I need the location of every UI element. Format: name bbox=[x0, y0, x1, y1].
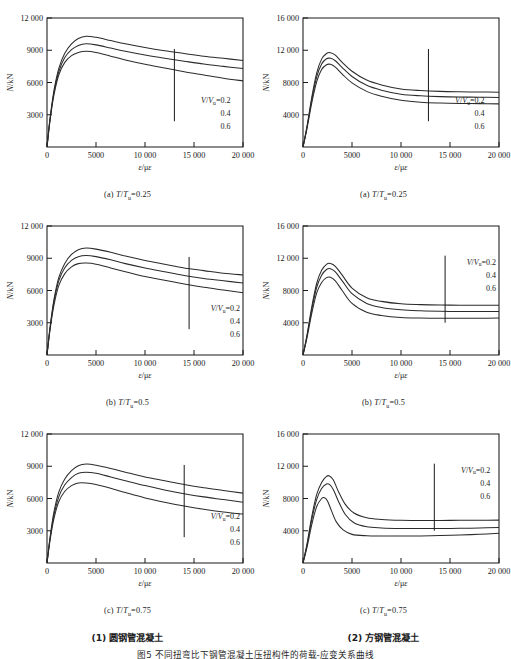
x-axis-label: ε/με bbox=[138, 163, 152, 172]
svg-text:4000: 4000 bbox=[283, 111, 299, 120]
svg-text:9000: 9000 bbox=[27, 254, 43, 263]
legend-group: V/Vu=0.20.40.6 bbox=[211, 512, 240, 547]
legend-entry-0: V/Vu=0.2 bbox=[211, 304, 240, 314]
y-axis-label: N/kN bbox=[6, 74, 15, 93]
x-axis-ticks: 0500010 00015 00020 000 bbox=[301, 350, 510, 368]
svg-text:15 000: 15 000 bbox=[183, 359, 206, 368]
series-line-2 bbox=[303, 497, 499, 563]
series-line-1 bbox=[303, 484, 499, 563]
svg-text:16 000: 16 000 bbox=[276, 14, 299, 23]
series-line-1 bbox=[303, 269, 499, 355]
subcaption-value: =0.5 bbox=[389, 398, 405, 407]
subcaption-variable: T/Tu bbox=[118, 398, 133, 407]
legend-group: V/Vu=0.20.40.6 bbox=[211, 304, 240, 339]
chart-panel-panel-1a: 30006000900012 0000500010 00015 00020 00… bbox=[0, 4, 255, 212]
subcaption-variable: T/Tu bbox=[116, 190, 131, 199]
subcaption-value: =0.75 bbox=[387, 606, 407, 615]
legend-group: V/Vu=0.20.40.6 bbox=[455, 96, 484, 131]
svg-text:5000: 5000 bbox=[344, 567, 360, 576]
svg-text:15 000: 15 000 bbox=[183, 151, 206, 160]
svg-text:10 000: 10 000 bbox=[134, 151, 157, 160]
panel-subcaption-panel-2c: (c) T/Tu=0.75 bbox=[256, 606, 511, 617]
subcaption-variable: T/Tu bbox=[116, 606, 131, 615]
svg-text:20 000: 20 000 bbox=[232, 567, 255, 576]
legend-entry-1: 0.4 bbox=[486, 271, 496, 280]
legend-entry-0: V/Vu=0.2 bbox=[201, 96, 230, 106]
y-axis-label: N/kN bbox=[6, 490, 15, 509]
svg-text:15 000: 15 000 bbox=[439, 567, 462, 576]
plot-area-panel-2b: 4000800012 00016 0000500010 00015 00020 … bbox=[256, 212, 511, 397]
panel-subcaption-panel-2a: (a) T/Tu=0.25 bbox=[256, 190, 511, 201]
legend-entry-0: V/Vu=0.2 bbox=[461, 466, 490, 476]
svg-text:4000: 4000 bbox=[283, 527, 299, 536]
series-group bbox=[303, 475, 499, 563]
svg-text:0: 0 bbox=[301, 359, 305, 368]
legend-entry-0: V/Vu=0.2 bbox=[211, 512, 240, 522]
subcaption-index: (b) bbox=[362, 398, 374, 407]
svg-text:5000: 5000 bbox=[344, 359, 360, 368]
panel-subcaption-panel-1a: (a) T/Tu=0.25 bbox=[0, 190, 255, 201]
series-line-1 bbox=[47, 44, 243, 147]
axis-frame bbox=[303, 434, 499, 563]
plot-area-panel-1c: 30006000900012 0000500010 00015 00020 00… bbox=[0, 420, 255, 605]
legend-entry-1: 0.4 bbox=[230, 525, 240, 534]
plot-area-panel-1b: 30006000900012 0000500010 00015 00020 00… bbox=[0, 212, 255, 397]
svg-text:10 000: 10 000 bbox=[390, 151, 413, 160]
y-axis-label: N/kN bbox=[262, 490, 271, 509]
svg-text:3000: 3000 bbox=[27, 527, 43, 536]
subcaption-index: (c) bbox=[360, 606, 372, 615]
subcaption-variable: T/Tu bbox=[372, 606, 387, 615]
svg-text:12 000: 12 000 bbox=[276, 254, 299, 263]
legend-entry-2: 0.6 bbox=[480, 492, 490, 501]
chart-panel-panel-1c: 30006000900012 0000500010 00015 00020 00… bbox=[0, 420, 255, 628]
subcaption-variable: T/Tu bbox=[372, 190, 387, 199]
legend-entry-2: 0.6 bbox=[230, 330, 240, 339]
svg-text:6000: 6000 bbox=[27, 287, 43, 296]
legend-entry-1: 0.4 bbox=[220, 109, 230, 118]
series-line-2 bbox=[303, 277, 499, 355]
svg-text:12 000: 12 000 bbox=[276, 462, 299, 471]
svg-text:20 000: 20 000 bbox=[232, 359, 255, 368]
series-line-2 bbox=[47, 483, 243, 563]
panel-subcaption-panel-2b: (b) T/Tu=0.5 bbox=[256, 398, 511, 409]
x-axis-label: ε/με bbox=[138, 579, 152, 588]
plot-area-panel-1a: 30006000900012 0000500010 00015 00020 00… bbox=[0, 4, 255, 189]
svg-text:9000: 9000 bbox=[27, 46, 43, 55]
svg-text:5000: 5000 bbox=[344, 151, 360, 160]
x-axis-label: ε/με bbox=[394, 371, 408, 380]
svg-text:15 000: 15 000 bbox=[183, 567, 206, 576]
x-axis-label: ε/με bbox=[394, 579, 408, 588]
x-axis-label: ε/με bbox=[138, 371, 152, 380]
legend-entry-2: 0.6 bbox=[486, 284, 496, 293]
svg-text:3000: 3000 bbox=[27, 319, 43, 328]
plot-area-panel-2a: 4000800012 00016 0000500010 00015 00020 … bbox=[256, 4, 511, 189]
x-axis-ticks: 0500010 00015 00020 000 bbox=[45, 142, 254, 160]
group-caption-left: (1) 圆钢管混凝土 bbox=[0, 630, 255, 644]
svg-text:6000: 6000 bbox=[27, 79, 43, 88]
axis-frame bbox=[47, 226, 243, 355]
svg-text:9000: 9000 bbox=[27, 462, 43, 471]
subcaption-variable: T/Tu bbox=[374, 398, 389, 407]
series-group bbox=[47, 248, 243, 355]
svg-text:12 000: 12 000 bbox=[20, 14, 43, 23]
legend-entry-1: 0.4 bbox=[480, 479, 490, 488]
chart-panel-panel-2b: 4000800012 00016 0000500010 00015 00020 … bbox=[256, 212, 511, 420]
x-axis-ticks: 0500010 00015 00020 000 bbox=[301, 558, 510, 576]
chart-panel-panel-1b: 30006000900012 0000500010 00015 00020 00… bbox=[0, 212, 255, 420]
axis-frame bbox=[303, 226, 499, 355]
svg-text:15 000: 15 000 bbox=[439, 151, 462, 160]
subcaption-value: =0.25 bbox=[387, 190, 407, 199]
x-axis-ticks: 0500010 00015 00020 000 bbox=[45, 350, 254, 368]
series-group bbox=[47, 36, 243, 147]
series-line-0 bbox=[303, 263, 499, 355]
svg-text:12 000: 12 000 bbox=[276, 46, 299, 55]
plot-area-panel-2c: 4000800012 00016 0000500010 00015 00020 … bbox=[256, 420, 511, 605]
svg-text:10 000: 10 000 bbox=[390, 567, 413, 576]
y-axis-label: N/kN bbox=[262, 74, 271, 93]
figure-container: 30006000900012 0000500010 00015 00020 00… bbox=[0, 0, 511, 659]
legend-group: V/Vu=0.20.40.6 bbox=[467, 258, 496, 293]
svg-text:12 000: 12 000 bbox=[20, 430, 43, 439]
svg-text:15 000: 15 000 bbox=[439, 359, 462, 368]
svg-text:20 000: 20 000 bbox=[488, 359, 511, 368]
axis-frame bbox=[303, 18, 499, 147]
